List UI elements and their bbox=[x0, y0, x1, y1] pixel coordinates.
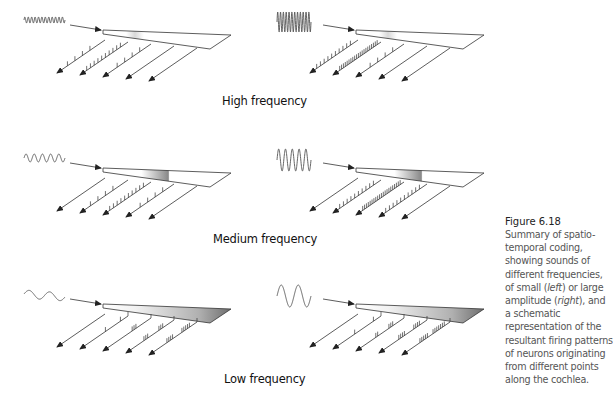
panel-medium-frequency-left bbox=[24, 154, 231, 219]
row-label-medium-frequency: Medium frequency bbox=[213, 232, 317, 246]
input-arrow-icon bbox=[323, 299, 354, 304]
sound-wave-icon bbox=[277, 149, 311, 171]
sound-wave-icon bbox=[277, 285, 311, 307]
neuron-fiber-arrow bbox=[80, 42, 128, 75]
neuron-fiber-arrow bbox=[126, 46, 174, 79]
sound-wave-icon bbox=[24, 290, 65, 300]
figure-caption-text: Summary of spatio-temporal coding, showi… bbox=[505, 228, 613, 386]
neuron-fiber-arrow bbox=[402, 322, 450, 355]
neuron-fiber-arrow bbox=[333, 180, 381, 213]
neuron-fiber-arrow bbox=[333, 42, 381, 75]
neuron-fiber-arrow bbox=[149, 186, 197, 219]
neuron-fiber-arrow bbox=[103, 44, 151, 77]
neuron-fiber-arrow bbox=[379, 320, 427, 353]
row-label-low-frequency: Low frequency bbox=[224, 372, 305, 386]
neuron-fiber-arrow bbox=[356, 182, 404, 215]
panel-low-frequency-left bbox=[24, 290, 231, 355]
neuron-fiber-arrow bbox=[80, 316, 128, 349]
neuron-fiber-arrow bbox=[126, 184, 174, 217]
panel-high-frequency-left bbox=[24, 17, 231, 81]
panel-low-frequency-right bbox=[277, 285, 484, 355]
neuron-fiber-arrow bbox=[402, 186, 450, 219]
panel-medium-frequency-right bbox=[277, 149, 484, 219]
figure-number: Figure 6.18 bbox=[505, 215, 613, 228]
figure-caption: Figure 6.18 Summary of spatio-temporal c… bbox=[505, 215, 613, 386]
input-arrow-icon bbox=[323, 163, 354, 168]
neuron-fiber-arrow bbox=[310, 178, 358, 211]
input-arrow-icon bbox=[70, 163, 101, 168]
neuron-fiber-arrow bbox=[149, 322, 197, 355]
neuron-fiber-arrow bbox=[310, 314, 358, 347]
neuron-fiber-arrow bbox=[80, 180, 128, 213]
neuron-fiber-arrow bbox=[57, 40, 105, 73]
neuron-fiber-arrow bbox=[402, 48, 450, 81]
neuron-fiber-arrow bbox=[379, 184, 427, 217]
sound-wave-icon bbox=[277, 12, 311, 32]
neuron-fiber-arrow bbox=[333, 316, 381, 349]
input-arrow-icon bbox=[323, 25, 354, 30]
neuron-fiber-arrow bbox=[310, 40, 358, 73]
input-arrow-icon bbox=[70, 25, 101, 30]
neuron-fiber-arrow bbox=[57, 314, 105, 347]
input-arrow-icon bbox=[70, 299, 101, 304]
neuron-fiber-arrow bbox=[356, 44, 404, 77]
sound-wave-icon bbox=[24, 154, 65, 162]
neuron-fiber-arrow bbox=[103, 182, 151, 215]
row-label-high-frequency: High frequency bbox=[222, 94, 307, 108]
neuron-fiber-arrow bbox=[103, 318, 151, 351]
neuron-fiber-arrow bbox=[356, 318, 404, 351]
sound-wave-icon bbox=[24, 17, 65, 23]
neuron-fiber-arrow bbox=[379, 46, 427, 79]
neuron-fiber-arrow bbox=[149, 48, 197, 81]
neuron-fiber-arrow bbox=[57, 178, 105, 211]
neuron-fiber-arrow bbox=[126, 320, 174, 353]
panel-high-frequency-right bbox=[277, 12, 484, 81]
